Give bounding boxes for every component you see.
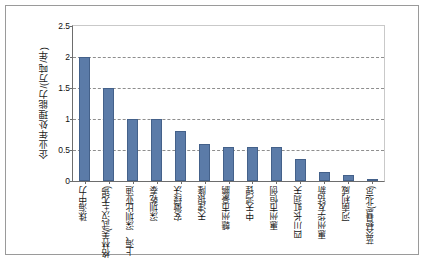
x-axis-label-text: 天津银隆 xyxy=(199,186,208,221)
y-axis-title-text: 企业年处理能力/(万吨/年) xyxy=(39,47,49,159)
bar[interactable] xyxy=(127,119,138,181)
bar[interactable] xyxy=(247,147,258,181)
y-tick-label: 1.5 xyxy=(58,83,70,93)
x-tick-mark xyxy=(85,181,86,184)
bar[interactable] xyxy=(271,147,282,181)
x-axis-label: 珠海中力 xyxy=(77,186,91,225)
x-tick-mark xyxy=(133,181,134,184)
bar[interactable] xyxy=(295,159,306,181)
x-tick-mark xyxy=(157,181,158,184)
y-tick-mark xyxy=(70,181,73,182)
plot-area: 00.511.522.5 xyxy=(72,25,385,182)
bar[interactable] xyxy=(319,172,330,181)
x-axis-label: 惠州市恒创 xyxy=(268,186,282,234)
x-axis-label-text: 安徽绿沃 xyxy=(175,186,184,221)
x-axis-label: 天津银隆 xyxy=(197,186,211,225)
x-axis-label-text: 河南利威 xyxy=(343,186,352,221)
x-axis-label-text: 蓝谷智慧(北京) xyxy=(367,186,376,244)
bar[interactable] xyxy=(175,131,186,181)
x-tick-mark xyxy=(324,181,325,184)
x-axis-label: 深圳乾泰 xyxy=(149,186,163,225)
bar-slot xyxy=(145,26,169,181)
x-axis-label-text: 上海、深圳比亚迪 xyxy=(127,186,136,256)
bar-slot xyxy=(73,26,97,181)
bar-slot xyxy=(336,26,360,181)
x-axis-label-text: 惠州市恒创 xyxy=(271,186,280,230)
x-axis-labels: 珠海中力格林美(武汉+无锡)上海、深圳比亚迪深圳乾泰安徽绿沃天津银隆赣州市豪鹏中… xyxy=(72,186,385,261)
x-axis-label-text: 四川长虹润天 xyxy=(295,186,304,239)
bar[interactable] xyxy=(199,144,210,181)
bars-layer xyxy=(73,26,384,181)
bar-slot xyxy=(312,26,336,181)
x-axis-label-text: 惠州华友钴新 xyxy=(319,186,328,239)
figure-frame: 企业年处理能力/(万吨/年) 00.511.522.5 珠海中力格林美(武汉+无… xyxy=(5,5,419,255)
bar-slot xyxy=(193,26,217,181)
bar[interactable] xyxy=(223,147,234,181)
x-axis-label-text: 赣州市豪鹏 xyxy=(223,186,232,230)
x-axis-label-text: 珠海中力 xyxy=(80,186,89,221)
x-tick-mark xyxy=(229,181,230,184)
x-tick-mark xyxy=(300,181,301,184)
y-tick-label: 0.5 xyxy=(58,145,70,155)
bar-slot xyxy=(360,26,384,181)
y-tick-label: 2.5 xyxy=(58,21,70,31)
y-axis-title: 企业年处理能力/(万吨/年) xyxy=(34,24,54,182)
x-axis-label: 惠州华友钴新 xyxy=(316,186,330,243)
x-axis-label-text: 深圳乾泰 xyxy=(151,186,160,221)
x-axis-label-text: 中天鸿锂 xyxy=(247,186,256,221)
x-tick-mark xyxy=(205,181,206,184)
bar-slot xyxy=(121,26,145,181)
bar[interactable] xyxy=(103,88,114,181)
x-axis-label: 赣州市豪鹏 xyxy=(221,186,235,234)
x-axis-label: 上海、深圳比亚迪 xyxy=(125,186,139,260)
x-axis-label: 安徽绿沃 xyxy=(173,186,187,225)
bar[interactable] xyxy=(79,57,90,181)
bar-slot xyxy=(97,26,121,181)
x-tick-mark xyxy=(276,181,277,184)
x-tick-mark xyxy=(109,181,110,184)
x-tick-mark xyxy=(181,181,182,184)
x-axis-label-text: 格林美(武汉+无锡) xyxy=(103,186,112,258)
bar-slot xyxy=(288,26,312,181)
x-axis-label: 四川长虹润天 xyxy=(292,186,306,243)
bar-slot xyxy=(264,26,288,181)
bar-slot xyxy=(169,26,193,181)
x-axis-label: 河南利威 xyxy=(340,186,354,225)
bar[interactable] xyxy=(151,119,162,181)
bar-slot xyxy=(217,26,241,181)
x-axis-label: 中天鸿锂 xyxy=(244,186,258,225)
x-tick-mark xyxy=(348,181,349,184)
x-axis-label: 蓝谷智慧(北京) xyxy=(364,186,378,248)
x-tick-mark xyxy=(372,181,373,184)
bar-slot xyxy=(240,26,264,181)
x-tick-mark xyxy=(252,181,253,184)
x-axis-label: 格林美(武汉+无锡) xyxy=(101,186,115,262)
